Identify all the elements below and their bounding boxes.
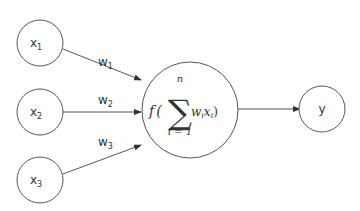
- input-node-x2: x2: [17, 89, 63, 135]
- weight-label-w2: w2: [98, 93, 113, 109]
- perceptron-diagram: x1 x2 x3 w1 w2 w3 f( n ∑ i = 1 wixi) y: [0, 0, 360, 211]
- sum-lower-limit: i = 1: [168, 126, 192, 137]
- input-label: x: [30, 36, 37, 50]
- output-node-y: y: [299, 86, 345, 132]
- input-node-x1: x1: [17, 20, 63, 66]
- edge-x3-to-neuron: [63, 145, 141, 174]
- weighted-term: wixi): [191, 105, 218, 120]
- input-node-x3: x3: [17, 157, 63, 203]
- neuron-node: f( n ∑ i = 1 wixi): [142, 62, 238, 158]
- output-label: y: [318, 102, 325, 116]
- input-label: x: [30, 173, 37, 187]
- input-label: x: [30, 105, 37, 119]
- weight-label-w3: w3: [98, 135, 113, 151]
- sum-upper-limit: n: [177, 73, 183, 84]
- weight-label-w1: w1: [98, 55, 113, 71]
